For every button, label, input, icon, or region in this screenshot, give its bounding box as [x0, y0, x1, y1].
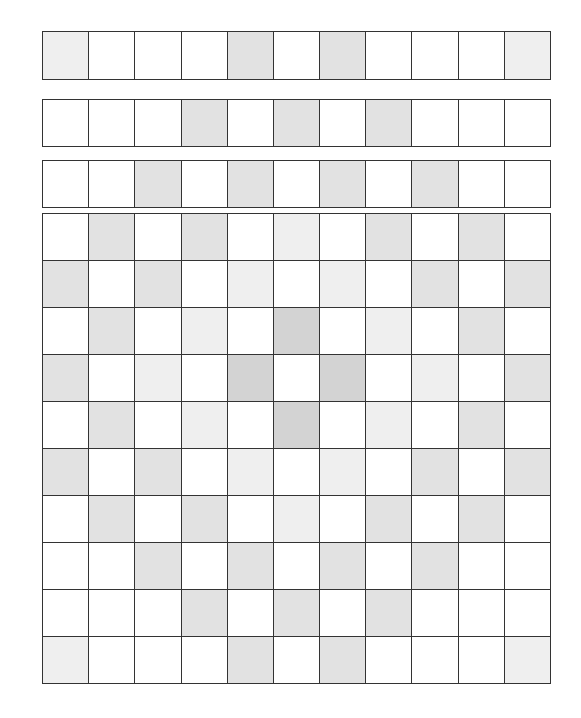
grid-cell	[459, 590, 505, 637]
grid-cell	[274, 590, 320, 637]
grid-cell	[412, 100, 458, 147]
grid-cell	[366, 543, 412, 590]
grid-cell	[505, 261, 551, 308]
grid-cell	[505, 402, 551, 449]
grid-cell	[43, 590, 89, 637]
grid-cell	[228, 590, 274, 637]
grid-cell	[412, 214, 458, 261]
grid-cell	[135, 214, 181, 261]
grid-cell	[135, 355, 181, 402]
grid-cell	[320, 590, 366, 637]
grid-cell	[320, 355, 366, 402]
grid-cell	[43, 214, 89, 261]
grid-cell	[366, 637, 412, 684]
grid-cell	[505, 449, 551, 496]
grid-cell	[459, 543, 505, 590]
grid-cell	[366, 355, 412, 402]
grid-cell	[274, 496, 320, 543]
grid-cell	[228, 308, 274, 355]
grid-cell	[89, 543, 135, 590]
grid-cell	[89, 214, 135, 261]
grid-cell	[228, 161, 274, 208]
grid-cell	[182, 32, 228, 80]
grid-cell	[505, 214, 551, 261]
grid-cell	[228, 32, 274, 80]
grid-cell	[274, 100, 320, 147]
grid-cell	[505, 308, 551, 355]
grid-cell	[459, 496, 505, 543]
grid-cell	[89, 355, 135, 402]
grid-cell	[505, 496, 551, 543]
grid-cell	[135, 543, 181, 590]
grid-cell	[459, 161, 505, 208]
grid-cell	[43, 402, 89, 449]
grid-cell	[320, 449, 366, 496]
grid-cell	[135, 261, 181, 308]
clipped-caption	[60, 0, 260, 4]
grid-cell	[459, 355, 505, 402]
grid-cell	[366, 496, 412, 543]
grid-cell	[366, 100, 412, 147]
grid-cell	[412, 355, 458, 402]
grid-cell	[412, 637, 458, 684]
grid-cell	[89, 261, 135, 308]
grid-cell	[135, 100, 181, 147]
grid-cell	[135, 32, 181, 80]
grid-cell	[43, 449, 89, 496]
grid-cell	[320, 32, 366, 80]
grid-cell	[274, 637, 320, 684]
grid-cell	[505, 100, 551, 147]
grid-cell	[89, 590, 135, 637]
grid-cell	[182, 100, 228, 147]
grid-cell	[182, 590, 228, 637]
grid-cell	[43, 308, 89, 355]
grid-cell	[89, 100, 135, 147]
grid-cell	[228, 261, 274, 308]
grid-cell	[274, 543, 320, 590]
grid-cell	[182, 161, 228, 208]
grid-cell	[459, 214, 505, 261]
grid-cell	[320, 496, 366, 543]
grid-cell	[505, 590, 551, 637]
grid-cell	[182, 637, 228, 684]
grid-cell	[135, 496, 181, 543]
grid-cell	[228, 355, 274, 402]
grid-cell	[366, 590, 412, 637]
grid-cell	[505, 355, 551, 402]
grid-cell	[412, 308, 458, 355]
grid-cell	[412, 496, 458, 543]
grid-cell	[459, 637, 505, 684]
grid-cell	[182, 543, 228, 590]
grid-cell	[89, 32, 135, 80]
strip-2	[42, 99, 551, 147]
grid-cell	[366, 161, 412, 208]
grid-cell	[412, 161, 458, 208]
grid-cell	[366, 214, 412, 261]
grid-cell	[228, 402, 274, 449]
grid-cell	[320, 543, 366, 590]
strip-1	[42, 31, 551, 80]
grid-cell	[320, 402, 366, 449]
grid-cell	[459, 261, 505, 308]
grid-cell	[274, 214, 320, 261]
grid-cell	[505, 637, 551, 684]
grid-cell	[459, 449, 505, 496]
grid-cell	[274, 261, 320, 308]
grid-cell	[182, 355, 228, 402]
grid-cell	[228, 100, 274, 147]
grid-cell	[320, 100, 366, 147]
strip-3	[42, 160, 551, 208]
grid-cell	[274, 308, 320, 355]
grid-cell	[459, 32, 505, 80]
grid-cell	[182, 308, 228, 355]
grid-cell	[182, 214, 228, 261]
grid-cell	[412, 402, 458, 449]
grid-cell	[43, 543, 89, 590]
grid-cell	[228, 543, 274, 590]
grid-cell	[182, 496, 228, 543]
grid-cell	[274, 355, 320, 402]
grid-cell	[459, 308, 505, 355]
grid-cell	[320, 161, 366, 208]
grid-cell	[43, 355, 89, 402]
grid-cell	[43, 496, 89, 543]
